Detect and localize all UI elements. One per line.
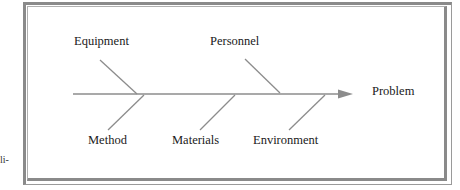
- effect-label-problem: Problem: [372, 84, 414, 99]
- bone-environment: [289, 95, 325, 130]
- cause-label-materials: Materials: [172, 133, 219, 148]
- bone-method: [108, 95, 144, 130]
- bone-equipment: [100, 60, 137, 94]
- arrowhead-icon: [338, 90, 353, 99]
- cause-label-environment: Environment: [253, 133, 318, 148]
- cause-label-equipment: Equipment: [74, 34, 129, 49]
- cause-label-method: Method: [88, 133, 127, 148]
- bone-materials: [200, 95, 235, 130]
- bone-personnel: [245, 59, 280, 93]
- cause-label-personnel: Personnel: [210, 34, 259, 49]
